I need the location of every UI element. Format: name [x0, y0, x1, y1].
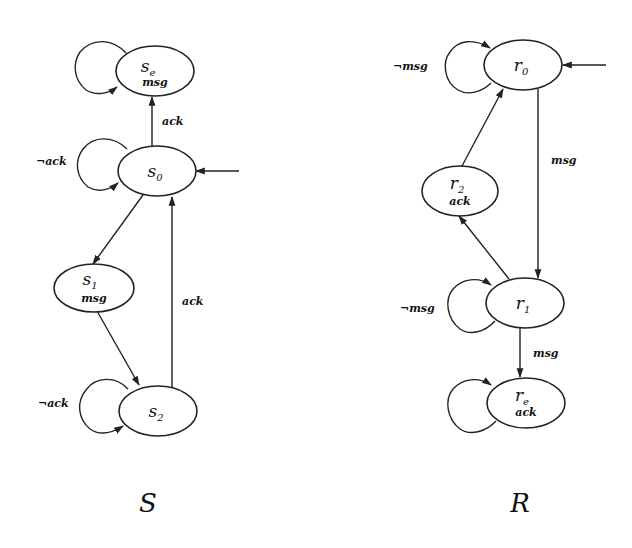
automaton-title-r: R [509, 488, 530, 518]
state-r2: r2 ack [422, 166, 498, 216]
state-s0: s0 [118, 146, 196, 196]
transition-s0-s1 [93, 195, 143, 264]
state-r0: r0 [484, 40, 562, 90]
edge-label-r0-loop: ¬msg [393, 60, 428, 73]
state-se: se msg [116, 46, 194, 96]
state-se-prop: msg [142, 76, 168, 89]
state-s1-prop: msg [81, 292, 107, 305]
edge-label-r1-re: msg [533, 347, 559, 360]
kripke-structures-diagram: ack ¬ack ack ¬ack se msg s0 s1 msg [0, 0, 632, 548]
state-s0-name: s [147, 161, 156, 181]
state-s2: s2 [119, 386, 197, 436]
state-r2-sub: 2 [457, 184, 464, 195]
state-s1-name: s [82, 269, 91, 289]
transition-r2-r0 [462, 89, 503, 166]
state-s1: s1 msg [54, 264, 134, 312]
edge-label-r0-r1: msg [551, 154, 577, 167]
automaton-r: ¬msg msg ¬msg msg r0 r2 ack r1 [393, 40, 606, 518]
edge-label-s0-se: ack [162, 115, 184, 128]
state-s0-sub: 0 [156, 172, 163, 183]
transition-s1-s2 [97, 311, 139, 385]
automaton-s: ack ¬ack ack ¬ack se msg s0 s1 msg [36, 42, 239, 518]
state-re: re ack [487, 378, 565, 428]
edge-label-r1-loop: ¬msg [400, 302, 435, 315]
edge-label-s2-loop: ¬ack [38, 397, 69, 410]
state-re-prop: ack [515, 406, 537, 419]
state-s2-name: s [148, 401, 157, 421]
automaton-title-s: S [139, 488, 157, 518]
state-s1-sub: 1 [91, 280, 97, 291]
edge-label-s0-loop: ¬ack [36, 155, 67, 168]
transition-r1-r2 [459, 216, 509, 279]
state-s2-sub: 2 [156, 412, 163, 423]
state-se-name: s [141, 56, 150, 76]
state-r0-sub: 0 [522, 66, 529, 77]
state-r2-prop: ack [449, 195, 471, 208]
edge-label-s2-s0: ack [182, 295, 204, 308]
state-r1-sub: 1 [524, 304, 530, 315]
state-r1: r1 [486, 278, 564, 328]
